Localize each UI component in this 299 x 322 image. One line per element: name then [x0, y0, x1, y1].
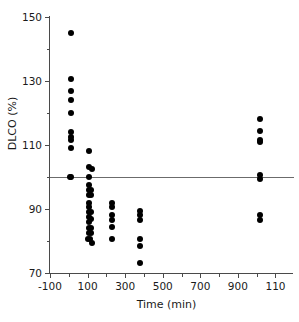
x-tick-label: 700: [190, 281, 210, 292]
data-point: [88, 230, 94, 236]
data-point: [257, 176, 263, 182]
data-point: [68, 174, 74, 180]
y-tick-minor: [47, 113, 50, 114]
data-point: [68, 88, 74, 94]
data-point: [109, 217, 115, 223]
y-tick-label: 110: [22, 140, 42, 151]
y-tick-label: 130: [22, 76, 42, 87]
x-tick-label: 110: [265, 281, 285, 292]
y-axis-label: DLCO (%): [7, 64, 18, 184]
x-tick: [200, 273, 201, 278]
y-tick: [45, 81, 50, 82]
data-point: [257, 139, 263, 145]
x-tick: [50, 273, 51, 278]
data-point: [137, 243, 143, 249]
x-axis-label: Time (min): [50, 299, 283, 310]
x-tick-minor: [182, 273, 183, 277]
y-tick: [45, 17, 50, 18]
x-tick-minor: [69, 273, 70, 277]
data-point: [137, 236, 143, 242]
data-point: [68, 76, 74, 82]
x-tick: [238, 273, 239, 278]
y-tick-label: 150: [22, 12, 42, 23]
data-point: [86, 148, 92, 154]
x-tick-label: 900: [228, 281, 248, 292]
data-point: [86, 174, 92, 180]
data-point: [137, 260, 143, 266]
y-tick-minor: [47, 241, 50, 242]
y-tick-label: 90: [29, 204, 42, 215]
x-tick-label: 100: [78, 281, 98, 292]
x-tick-minor: [106, 273, 107, 277]
data-point: [257, 217, 263, 223]
x-tick-label: 500: [153, 281, 173, 292]
x-tick-minor: [219, 273, 220, 277]
x-tick-label: -100: [38, 281, 62, 292]
data-point: [89, 166, 95, 172]
data-point: [109, 236, 115, 242]
y-tick-label: 70: [29, 268, 42, 279]
data-point: [257, 128, 263, 134]
x-tick: [163, 273, 164, 278]
x-tick-minor: [144, 273, 145, 277]
y-tick-minor: [47, 49, 50, 50]
data-point: [68, 137, 74, 143]
data-point: [86, 219, 92, 225]
data-point: [137, 217, 143, 223]
data-point: [109, 204, 115, 210]
data-point: [68, 110, 74, 116]
data-point: [68, 97, 74, 103]
scatter-plot-figure: 7090110130150 -100100300500700900110 Tim…: [0, 0, 299, 322]
x-tick: [275, 273, 276, 278]
y-tick: [45, 209, 50, 210]
x-tick-label: 300: [115, 281, 135, 292]
data-point: [109, 224, 115, 230]
data-point: [257, 116, 263, 122]
x-tick-minor: [257, 273, 258, 277]
y-tick-minor: [47, 177, 50, 178]
data-point: [68, 30, 74, 36]
data-point: [68, 145, 74, 151]
x-tick: [88, 273, 89, 278]
data-point: [88, 192, 94, 198]
y-tick: [45, 145, 50, 146]
x-tick: [125, 273, 126, 278]
data-point: [89, 240, 95, 246]
plot-area: 7090110130150 -100100300500700900110: [50, 17, 283, 273]
